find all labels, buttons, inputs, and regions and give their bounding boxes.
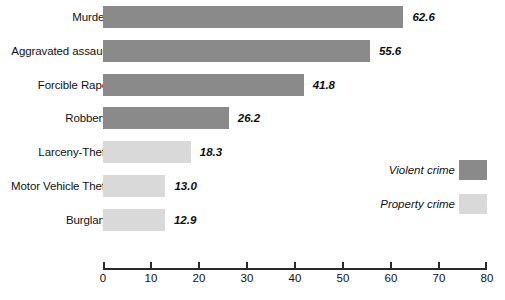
- bar-violent: [103, 40, 370, 62]
- bar-row: Robbery26.2: [0, 107, 505, 129]
- legend-label: Violent crime: [389, 160, 455, 180]
- category-label: Robbery: [65, 107, 108, 129]
- x-axis-tick-label: 10: [131, 272, 171, 284]
- legend-item: Violent crime: [330, 160, 487, 186]
- bar-value-label: 12.9: [174, 209, 196, 231]
- category-label: Aggravated assault: [11, 40, 108, 62]
- x-axis-tick: [438, 262, 440, 270]
- x-axis-tick: [150, 262, 152, 270]
- bar-violent: [103, 74, 304, 96]
- category-label: Forcible Rape: [38, 74, 108, 96]
- x-axis-tick: [390, 262, 392, 270]
- bar-violent: [103, 6, 403, 28]
- category-label: Motor Vehicle Theft: [11, 175, 108, 197]
- legend-label: Property crime: [380, 194, 455, 214]
- x-axis-tick: [485, 262, 487, 270]
- chart-legend: Violent crimeProperty crime: [330, 160, 487, 228]
- bar-violent: [103, 107, 229, 129]
- category-label: Larceny-Theft: [38, 141, 108, 163]
- bar-row: Murder62.6: [0, 6, 505, 28]
- bar-value-label: 26.2: [238, 107, 260, 129]
- bar-chart: Murder62.6Aggravated assault55.6Forcible…: [0, 0, 505, 300]
- x-axis-tick: [103, 262, 105, 270]
- x-axis-tick-label: 80: [467, 272, 505, 284]
- bar-value-label: 55.6: [379, 40, 401, 62]
- legend-swatch: [459, 160, 487, 180]
- legend-item: Property crime: [330, 194, 487, 220]
- x-axis-tick-label: 50: [323, 272, 363, 284]
- x-axis-tick: [342, 262, 344, 270]
- x-axis-line: [103, 268, 487, 270]
- x-axis-tick-label: 30: [227, 272, 267, 284]
- x-axis-tick-label: 0: [83, 272, 123, 284]
- x-axis-tick: [246, 262, 248, 270]
- bar-row: Aggravated assault55.6: [0, 40, 505, 62]
- legend-swatch: [459, 194, 487, 214]
- bar-value-label: 18.3: [200, 141, 222, 163]
- x-axis-tick: [294, 262, 296, 270]
- bar-value-label: 13.0: [174, 175, 196, 197]
- x-axis-tick-label: 40: [275, 272, 315, 284]
- x-axis-tick-label: 70: [419, 272, 459, 284]
- category-label: Burglary: [66, 209, 108, 231]
- x-axis-tick: [198, 262, 200, 270]
- bar-value-label: 62.6: [412, 6, 434, 28]
- x-axis-tick-label: 20: [179, 272, 219, 284]
- bar-row: Forcible Rape41.8: [0, 74, 505, 96]
- x-axis-tick-label: 60: [371, 272, 411, 284]
- bar-property: [103, 175, 165, 197]
- bar-property: [103, 141, 191, 163]
- bar-value-label: 41.8: [313, 74, 335, 96]
- bar-property: [103, 209, 165, 231]
